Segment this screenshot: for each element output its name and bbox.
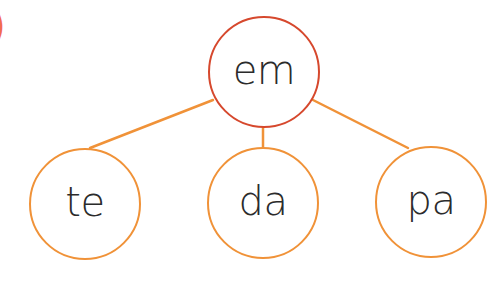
child-node-pa: pa (375, 146, 487, 258)
edge-em-pa (313, 100, 408, 148)
syllable-tree-diagram: ) em te da pa (0, 0, 504, 285)
node-label: da (239, 181, 288, 221)
edge-em-te (90, 100, 213, 148)
cropped-parenthesis-label: ) (0, 4, 6, 48)
node-label: pa (407, 180, 456, 220)
root-node-em: em (208, 16, 320, 128)
node-label: em (233, 50, 296, 90)
child-node-da: da (207, 147, 319, 259)
child-node-te: te (29, 148, 141, 260)
node-label: te (65, 182, 104, 222)
